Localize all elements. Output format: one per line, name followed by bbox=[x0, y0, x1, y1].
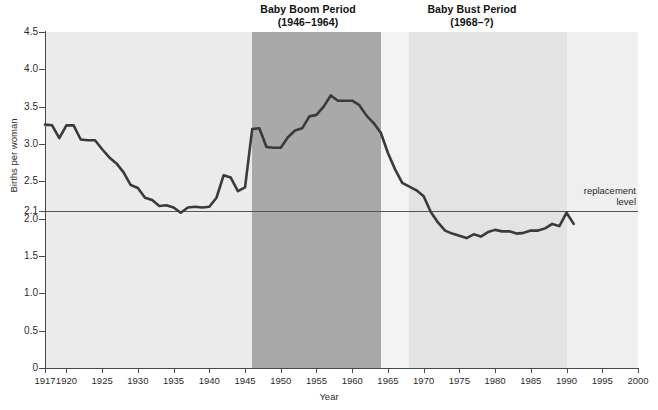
x-tick-label-1960: 1960 bbox=[332, 375, 372, 386]
x-tick-1930 bbox=[138, 368, 139, 373]
x-tick-1995 bbox=[602, 368, 603, 373]
baby-bust-title-line2: (1968–?) bbox=[412, 16, 532, 29]
replacement-note-line1: replacement bbox=[544, 185, 636, 196]
x-tick-label-1970: 1970 bbox=[404, 375, 444, 386]
x-tick-label-1975: 1975 bbox=[439, 375, 479, 386]
x-axis-line bbox=[45, 368, 639, 369]
x-tick-label-1925: 1925 bbox=[82, 375, 122, 386]
x-tick-label-1920: 1920 bbox=[46, 375, 86, 386]
x-tick-label-2000: 2000 bbox=[618, 375, 658, 386]
y-tick-label-0.5: 0.5 bbox=[2, 325, 38, 336]
x-tick-label-1965: 1965 bbox=[368, 375, 408, 386]
x-tick-label-1935: 1935 bbox=[154, 375, 194, 386]
baby-bust-title-line1: Baby Bust Period bbox=[412, 3, 532, 16]
x-tick-1945 bbox=[245, 368, 246, 373]
y-tick-1.5 bbox=[39, 256, 45, 257]
x-tick-1970 bbox=[424, 368, 425, 373]
x-tick-1940 bbox=[209, 368, 210, 373]
x-tick-2000 bbox=[638, 368, 639, 373]
x-tick-label-1990: 1990 bbox=[547, 375, 587, 386]
x-tick-label-1980: 1980 bbox=[475, 375, 515, 386]
x-tick-1975 bbox=[459, 368, 460, 373]
x-tick-1925 bbox=[102, 368, 103, 373]
y-axis-tick-labels: 00.51.01.52.02.12.53.03.54.04.5 bbox=[0, 0, 38, 410]
x-tick-1980 bbox=[495, 368, 496, 373]
y-tick-label-4.0: 4.0 bbox=[2, 63, 38, 74]
x-tick-label-1945: 1945 bbox=[225, 375, 265, 386]
y-tick-4.5 bbox=[39, 32, 45, 33]
y-tick-2.1 bbox=[39, 211, 45, 212]
x-tick-label-1950: 1950 bbox=[261, 375, 301, 386]
baby-boom-period-title: Baby Boom Period (1946–1964) bbox=[243, 3, 373, 28]
y-tick-label-1.0: 1.0 bbox=[2, 287, 38, 298]
x-tick-1985 bbox=[531, 368, 532, 373]
y-tick-label-1.5: 1.5 bbox=[2, 250, 38, 261]
x-tick-1965 bbox=[388, 368, 389, 373]
series-path-total-fertility-rate bbox=[45, 95, 574, 238]
x-axis-title: Year bbox=[0, 391, 658, 402]
y-axis-title: Births per woman bbox=[8, 91, 19, 221]
x-tick-label-1985: 1985 bbox=[511, 375, 551, 386]
x-tick-1955 bbox=[316, 368, 317, 373]
y-tick-2.5 bbox=[39, 181, 45, 182]
replacement-note-line2: level bbox=[544, 196, 636, 207]
baby-boom-title-line2: (1946–1964) bbox=[243, 16, 373, 29]
x-tick-1935 bbox=[174, 368, 175, 373]
x-tick-label-1995: 1995 bbox=[582, 375, 622, 386]
x-tick-1950 bbox=[281, 368, 282, 373]
replacement-level-annotation: replacement level bbox=[544, 185, 636, 207]
y-tick-4.0 bbox=[39, 69, 45, 70]
x-tick-1917 bbox=[45, 368, 46, 373]
x-tick-label-1930: 1930 bbox=[118, 375, 158, 386]
x-tick-label-1955: 1955 bbox=[296, 375, 336, 386]
baby-bust-period-title: Baby Bust Period (1968–?) bbox=[412, 3, 532, 28]
y-tick-3.0 bbox=[39, 144, 45, 145]
y-tick-3.5 bbox=[39, 107, 45, 108]
baby-boom-title-line1: Baby Boom Period bbox=[243, 3, 373, 16]
chart-figure: Baby Boom Period (1946–1964) Baby Bust P… bbox=[0, 0, 658, 410]
x-tick-1960 bbox=[352, 368, 353, 373]
y-tick-label-0: 0 bbox=[2, 362, 38, 373]
y-axis-line bbox=[45, 31, 46, 369]
y-tick-1.0 bbox=[39, 293, 45, 294]
x-tick-label-1940: 1940 bbox=[189, 375, 229, 386]
y-tick-2.0 bbox=[39, 219, 45, 220]
y-tick-label-4.5: 4.5 bbox=[2, 26, 38, 37]
x-tick-1990 bbox=[567, 368, 568, 373]
y-tick-0.5 bbox=[39, 331, 45, 332]
x-tick-1920 bbox=[66, 368, 67, 373]
